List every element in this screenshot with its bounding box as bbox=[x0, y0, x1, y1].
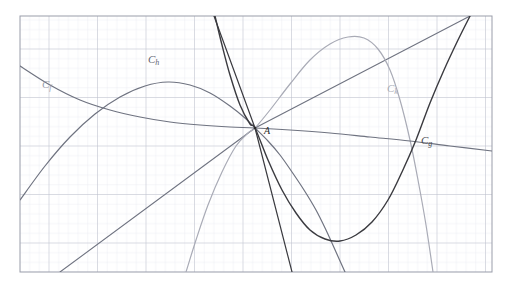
curve-label-cf: Cf bbox=[42, 78, 52, 92]
curve-label-cg: Cg bbox=[421, 134, 432, 148]
curve-label-ch: Ch bbox=[148, 53, 159, 67]
point-a-marker bbox=[254, 127, 257, 130]
point-label-a: A bbox=[264, 125, 270, 136]
plot-canvas bbox=[0, 0, 512, 287]
graph-figure: Cf Ch Ck Cg A bbox=[0, 0, 512, 287]
curve-label-ck: Ck bbox=[387, 82, 398, 96]
